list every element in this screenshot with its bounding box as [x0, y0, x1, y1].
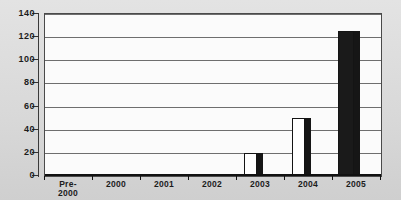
x-axis-line — [45, 174, 381, 176]
gridline-60 — [45, 107, 381, 108]
bar-side-2005 — [354, 31, 360, 176]
y-tick-label-140: 140 — [0, 8, 35, 18]
y-tick-label-40: 40 — [0, 124, 35, 134]
bar-front-2004 — [292, 118, 305, 176]
gridline-80 — [45, 83, 381, 84]
gridline-140 — [45, 14, 381, 15]
bar-2003 — [244, 153, 263, 176]
bar-front-2003 — [244, 153, 257, 176]
x-label-2005: 2005 — [328, 180, 384, 189]
bar-chart: 020406080100120140 Pre- 2000200020012002… — [0, 0, 401, 200]
bar-2004 — [292, 118, 311, 176]
gridline-40 — [45, 130, 381, 131]
y-tick-label-60: 60 — [0, 101, 35, 111]
y-tick-label-0: 0 — [0, 170, 35, 180]
bar-side-2003 — [257, 153, 263, 176]
gridline-120 — [45, 37, 381, 38]
y-tick-label-20: 20 — [0, 147, 35, 157]
y-tick-label-100: 100 — [0, 54, 35, 64]
bar-front-2005 — [338, 31, 354, 176]
bar-side-2004 — [305, 118, 311, 176]
gridline-100 — [45, 60, 381, 61]
bar-2005 — [338, 31, 360, 176]
gridline-20 — [45, 153, 381, 154]
y-tick-label-80: 80 — [0, 77, 35, 87]
y-tick-label-120: 120 — [0, 31, 35, 41]
plot-area — [44, 13, 382, 177]
